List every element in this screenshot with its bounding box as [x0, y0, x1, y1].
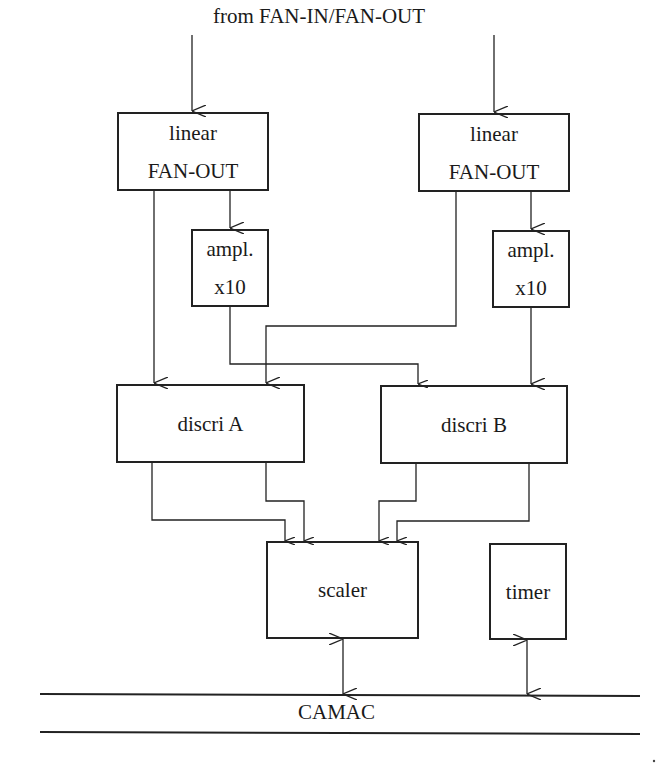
fanout-left-box: linear FAN-OUT	[117, 112, 269, 191]
timer-label: timer	[506, 573, 550, 611]
camac-bus-top	[40, 694, 640, 696]
fanout-right-box: linear FAN-OUT	[418, 113, 570, 192]
discri-b-box: discri B	[380, 385, 568, 464]
amp-right-line2: x10	[515, 269, 547, 307]
amp-left-line1: ampl.	[206, 230, 253, 268]
camac-bus-bottom	[40, 732, 640, 734]
block-diagram: from FAN-IN/FAN-OUT linear FAN-OUT linea…	[0, 0, 671, 766]
amp-left-box: ampl. x10	[191, 229, 269, 307]
scaler-box: scaler	[266, 541, 419, 639]
discri-a-label: discri A	[178, 405, 244, 443]
amp-right-box: ampl. x10	[492, 230, 570, 308]
fanout-right-line1: linear	[470, 115, 518, 153]
timer-box: timer	[489, 543, 567, 640]
discri-a-box: discri A	[116, 384, 305, 463]
camac-label: CAMAC	[298, 700, 375, 725]
amp-right-line1: ampl.	[507, 231, 554, 269]
fanout-left-line1: linear	[169, 114, 217, 152]
fanout-left-line2: FAN-OUT	[148, 152, 239, 190]
fanout-right-line2: FAN-OUT	[449, 153, 540, 191]
amp-left-line2: x10	[214, 268, 246, 306]
speck	[653, 760, 655, 762]
scaler-label: scaler	[318, 571, 367, 609]
discri-b-label: discri B	[441, 406, 507, 444]
input-label: from FAN-IN/FAN-OUT	[213, 4, 425, 29]
connection-lines	[0, 0, 671, 766]
